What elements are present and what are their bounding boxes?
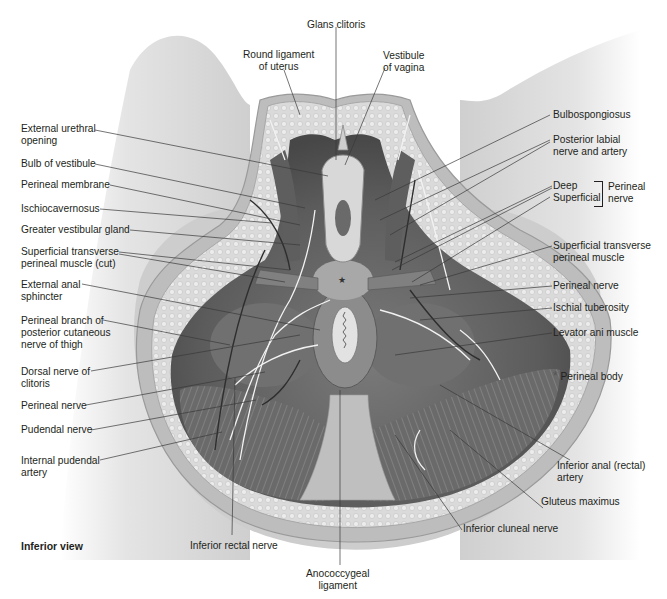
label-anococcygeal-ligament: Anococcygeal ligament (306, 568, 369, 592)
label-gluteus-maximus: Gluteus maximus (541, 496, 620, 508)
label-external-urethral-opening: External urethral opening (21, 123, 96, 147)
label-round-ligament-of-uterus: Round ligament of uterus (243, 49, 314, 73)
label-inferior-rectal-nerve: Inferior rectal nerve (190, 540, 278, 552)
label-perineal-nerve-group: Perineal nerve (608, 181, 645, 205)
label-bulb-of-vestibule: Bulb of vestibule (21, 158, 96, 170)
label-deep: Deep (553, 180, 577, 192)
label-glans-clitoris: Glans clitoris (307, 19, 365, 31)
label-perineal-membrane: Perineal membrane (21, 179, 110, 191)
label-perineal-branch-posterior-cutaneous-nerve: Perineal branch of posterior cutaneous n… (21, 315, 110, 351)
label-dorsal-nerve-of-clitoris: Dorsal nerve of clitoris (21, 366, 90, 390)
label-external-anal-sphincter: External anal sphincter (21, 279, 80, 303)
label-posterior-labial-nerve-and-artery: Posterior labial nerve and artery (553, 134, 627, 158)
label-pudendal-nerve: Pudendal nerve (21, 424, 92, 436)
label-superficial-transverse-perineal-muscle: Superficial transverse perineal muscle (553, 240, 651, 264)
vaginal-opening-shape (335, 200, 351, 236)
label-ischiocavernosus: Ischiocavernosus (21, 203, 100, 215)
view-caption: Inferior view (21, 540, 83, 552)
label-greater-vestibular-gland: Greater vestibular gland (21, 224, 130, 236)
label-internal-pudendal-artery: Internal pudendal artery (21, 455, 100, 479)
label-perineal-nerve-right: Perineal nerve (553, 280, 619, 292)
label-perineal-nerve-left: Perineal nerve (21, 400, 87, 412)
label-inferior-cluneal-nerve: Inferior cluneal nerve (463, 523, 558, 535)
label-superficial-transverse-perineal-muscle-cut: Superficial transverse perineal muscle (… (21, 246, 119, 270)
anatomy-figure: ★ (0, 0, 667, 599)
perineal-body-star-icon: * (553, 369, 558, 383)
perineal-nerve-bracket (594, 181, 603, 207)
label-vestibule-of-vagina: Vestibule of vagina (383, 50, 424, 74)
label-ischial-tuberosity: Ischial tuberosity (553, 302, 629, 314)
label-levator-ani-muscle: Levator ani muscle (553, 327, 639, 339)
label-bulbospongiosus: Bulbospongiosus (553, 109, 631, 121)
label-perineal-body: * Perineal body (553, 370, 623, 383)
perineum-illustration: ★ (0, 0, 667, 599)
label-inferior-anal-rectal-artery: Inferior anal (rectal) artery (557, 460, 645, 484)
perineal-body-star-marker: ★ (338, 275, 346, 285)
